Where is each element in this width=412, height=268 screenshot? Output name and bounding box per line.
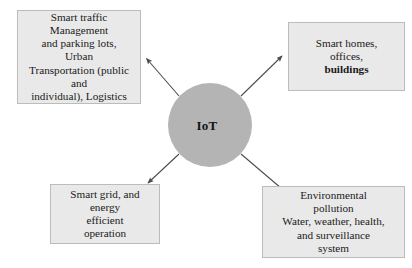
- node-box-environmental-pollution: Environmental pollution Water, weather, …: [262, 186, 405, 258]
- node-label-smart-traffic: Smart traffic Management and parking lot…: [18, 11, 140, 104]
- hub-circle-iot: IoT: [168, 83, 252, 167]
- node-box-smart-grid: Smart grid, and energy efficient operati…: [50, 184, 160, 244]
- hub-label-iot: IoT: [196, 118, 217, 134]
- arrow-hub-to-grid: [148, 154, 179, 183]
- node-label-smart-grid: Smart grid, and energy efficient operati…: [51, 188, 159, 241]
- arrow-hub-to-homes: [241, 56, 282, 96]
- iot-diagram: Smart traffic Management and parking lot…: [0, 0, 412, 268]
- node-label-environmental-pollution: Environmental pollution Water, weather, …: [263, 189, 404, 255]
- node-label-smart-homes-line-2: offices,: [330, 50, 363, 62]
- node-box-smart-homes: Smart homes,offices,buildings: [288, 22, 405, 91]
- node-label-smart-homes-line-3: buildings: [324, 63, 368, 75]
- node-box-smart-traffic: Smart traffic Management and parking lot…: [17, 10, 141, 104]
- node-label-smart-homes-line-1: Smart homes,: [316, 37, 378, 49]
- arrow-hub-to-traffic: [147, 59, 180, 97]
- node-label-smart-homes: Smart homes,offices,buildings: [289, 37, 404, 77]
